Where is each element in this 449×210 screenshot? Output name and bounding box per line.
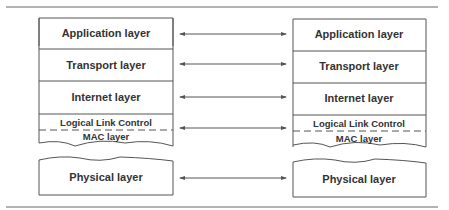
left-application-label: Application layer — [62, 27, 151, 39]
right-internet-label: Internet layer — [324, 92, 394, 104]
connection-arrows — [180, 34, 286, 178]
left-mac-label: MAC layer — [83, 131, 130, 142]
right-application-label: Application layer — [315, 28, 404, 40]
right-mac-label: MAC layer — [336, 133, 383, 144]
right-llc-label: Logical Link Control — [313, 118, 405, 129]
left-transport-label: Transport layer — [66, 59, 146, 71]
right-physical-label: Physical layer — [322, 173, 396, 185]
left-internet-label: Internet layer — [71, 91, 141, 103]
right-stack — [293, 19, 426, 197]
right-transport-label: Transport layer — [319, 60, 399, 72]
left-stack — [39, 18, 173, 195]
protocol-stack-diagram: Application layer Transport layer Intern… — [0, 0, 449, 210]
left-llc-label: Logical Link Control — [60, 117, 152, 128]
left-physical-label: Physical layer — [69, 171, 143, 183]
